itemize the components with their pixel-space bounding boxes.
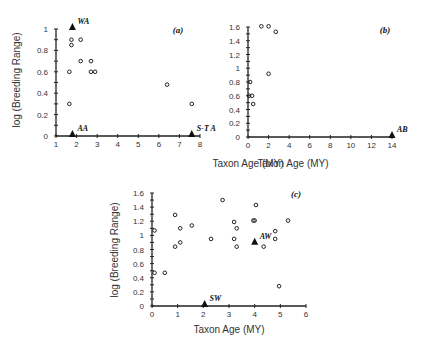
y-tick-label: 1 bbox=[236, 64, 241, 73]
y-tick-label: 1 bbox=[140, 231, 145, 240]
data-point-circle bbox=[153, 229, 157, 233]
point-annotation: S-T A bbox=[197, 124, 217, 133]
x-tick-label: 12 bbox=[367, 141, 376, 150]
data-point-circle bbox=[267, 25, 271, 29]
y-axis-label: log (Breeding Range) bbox=[109, 202, 120, 297]
y-tick-label: 0.2 bbox=[229, 119, 241, 128]
data-point-circle bbox=[251, 102, 255, 106]
y-tick-label: 0 bbox=[140, 302, 145, 311]
x-tick-label: 4 bbox=[252, 310, 257, 319]
data-point-triangle bbox=[251, 238, 258, 245]
data-point-circle bbox=[68, 102, 72, 106]
data-point-triangle bbox=[188, 130, 195, 137]
y-tick-label: 0.4 bbox=[37, 89, 49, 98]
x-tick-label: 2 bbox=[266, 141, 271, 150]
y-tick-label: 0.6 bbox=[133, 260, 145, 269]
y-tick-label: 0.4 bbox=[229, 106, 241, 115]
x-tick-label: 5 bbox=[136, 140, 141, 149]
figure-canvas: 1234567800.20.40.60.81log (Breeding Rang… bbox=[0, 0, 425, 347]
data-point-circle bbox=[190, 102, 194, 106]
data-point-circle bbox=[267, 72, 271, 76]
data-point-circle bbox=[153, 271, 157, 275]
chart-panel-c: 012345600.20.40.60.811.21.41.6log (Breed… bbox=[109, 189, 309, 335]
data-point-circle bbox=[68, 70, 72, 74]
panel-label: (c) bbox=[291, 189, 301, 199]
point-annotation: SW bbox=[210, 294, 222, 303]
y-tick-label: 0.4 bbox=[133, 274, 145, 283]
data-point-triangle bbox=[69, 23, 76, 30]
data-point-circle bbox=[79, 38, 83, 42]
data-point-circle bbox=[273, 229, 277, 233]
data-point-circle bbox=[221, 198, 225, 202]
data-point-triangle bbox=[69, 130, 76, 137]
x-tick-label: 5 bbox=[278, 310, 283, 319]
data-point-circle bbox=[209, 237, 213, 241]
x-tick-label: 6 bbox=[307, 141, 312, 150]
x-tick-label: 1 bbox=[175, 310, 180, 319]
data-point-circle bbox=[178, 227, 182, 231]
y-tick-label: 0.8 bbox=[133, 246, 145, 255]
y-tick-label: 1 bbox=[44, 25, 49, 34]
y-tick-label: 1.6 bbox=[229, 23, 241, 32]
y-tick-label: 0.6 bbox=[229, 92, 241, 101]
data-point-circle bbox=[79, 59, 83, 63]
data-point-circle bbox=[277, 284, 281, 288]
data-point-circle bbox=[232, 220, 236, 224]
data-point-circle bbox=[260, 25, 264, 29]
data-point-circle bbox=[89, 70, 93, 74]
x-tick-label: 0 bbox=[246, 141, 251, 150]
data-point-circle bbox=[286, 219, 290, 223]
x-tick-label: 0 bbox=[150, 310, 155, 319]
y-axis-label: log (Breeding Range) bbox=[11, 32, 22, 127]
x-tick-label: 6 bbox=[157, 140, 162, 149]
x-axis-label-top: Taxon Age (MY) bbox=[257, 158, 328, 169]
panel-label: (b) bbox=[380, 25, 391, 35]
y-tick-label: 0.8 bbox=[37, 46, 49, 55]
y-tick-label: 0.2 bbox=[37, 111, 49, 120]
y-tick-label: 1.2 bbox=[133, 217, 145, 226]
point-annotation: AB bbox=[396, 125, 408, 134]
data-point-circle bbox=[173, 213, 177, 217]
y-tick-label: 1.4 bbox=[133, 203, 145, 212]
y-tick-label: 0 bbox=[236, 133, 241, 142]
x-axis-label: Taxon Age (MY) bbox=[193, 324, 264, 335]
x-tick-label: 4 bbox=[287, 141, 292, 150]
y-tick-label: 0 bbox=[44, 132, 49, 141]
x-tick-label: 6 bbox=[304, 310, 309, 319]
data-point-triangle bbox=[201, 300, 208, 307]
point-annotation: AW bbox=[259, 232, 273, 241]
x-tick-label: 14 bbox=[388, 141, 397, 150]
data-point-circle bbox=[254, 203, 258, 207]
data-point-circle bbox=[273, 237, 277, 241]
data-point-triangle bbox=[389, 131, 396, 138]
data-point-circle bbox=[232, 237, 236, 241]
x-tick-label: 1 bbox=[54, 140, 59, 149]
point-annotation: WA bbox=[77, 17, 90, 26]
x-tick-label: 10 bbox=[346, 141, 355, 150]
data-point-circle bbox=[165, 83, 169, 87]
point-annotation: AA bbox=[76, 124, 88, 133]
y-tick-label: 1.6 bbox=[133, 189, 145, 198]
x-tick-label: 8 bbox=[198, 140, 203, 149]
data-point-circle bbox=[178, 241, 182, 245]
x-tick-label: 2 bbox=[201, 310, 206, 319]
y-tick-label: 0.6 bbox=[37, 68, 49, 77]
data-point-circle bbox=[235, 227, 239, 231]
data-point-circle bbox=[89, 59, 93, 63]
data-point-circle bbox=[262, 245, 266, 249]
panel-label: (a) bbox=[173, 25, 184, 35]
y-tick-label: 0.8 bbox=[229, 78, 241, 87]
x-tick-label: 7 bbox=[177, 140, 182, 149]
y-tick-label: 1.4 bbox=[229, 37, 241, 46]
data-point-circle bbox=[173, 245, 177, 249]
data-point-circle bbox=[93, 70, 97, 74]
chart-panel-b: 0246810121400.20.40.60.811.21.41.6Taxon … bbox=[212, 23, 408, 169]
data-point-circle bbox=[70, 38, 74, 42]
y-tick-label: 0.2 bbox=[133, 288, 145, 297]
chart-panel-a: 1234567800.20.40.60.81log (Breeding Rang… bbox=[11, 17, 216, 149]
y-tick-label: 1.2 bbox=[229, 51, 241, 60]
x-tick-label: 2 bbox=[74, 140, 79, 149]
x-tick-label: 8 bbox=[328, 141, 333, 150]
x-tick-label: 3 bbox=[95, 140, 100, 149]
data-point-circle bbox=[235, 245, 239, 249]
